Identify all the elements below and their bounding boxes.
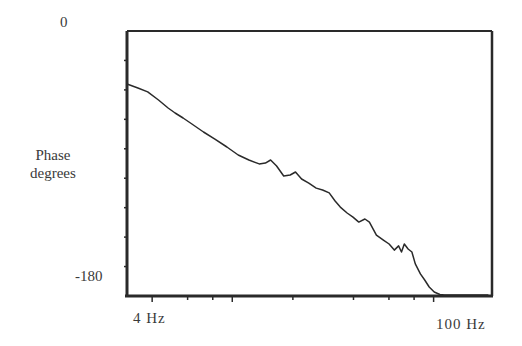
axis-ticks [124,60,434,302]
y-axis-title-line1: Phase [30,146,76,164]
y-axis-title: Phase degrees [30,146,76,182]
y-tick-label-minus180: -180 [75,268,103,285]
x-tick-label-4hz: 4 Hz [133,310,166,327]
plot-frame [125,31,493,297]
y-tick-label-0: 0 [60,14,68,31]
x-tick-label-100hz: 100 Hz [436,316,486,333]
phase-plot [0,0,522,346]
y-axis-title-line2: degrees [30,164,76,182]
phase-curve [127,84,488,295]
